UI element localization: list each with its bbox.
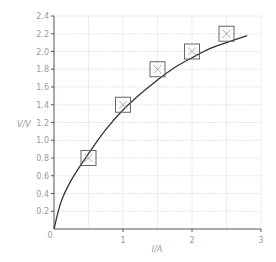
x-tick-label: 1: [120, 236, 125, 245]
tick-labels: 1230.20.40.60.81.01.21.41.61.82.02.22.4: [36, 12, 263, 245]
y-tick-label: 1.2: [36, 119, 49, 128]
y-tick-label: 1.6: [36, 83, 49, 92]
y-tick-label: 2.2: [36, 30, 49, 39]
grid: [54, 16, 261, 229]
y-tick-label: 1.0: [36, 136, 49, 145]
y-tick-label: 1.4: [36, 101, 49, 110]
y-tick-label: 0.8: [36, 154, 49, 163]
y-tick-label: 0.4: [36, 190, 49, 199]
y-tick-label: 2.4: [36, 12, 49, 21]
x-axis-label: I/A: [152, 245, 163, 254]
best-fit-curve: [54, 36, 247, 229]
y-axis-label: V/V: [17, 120, 31, 129]
y-tick-label: 0.6: [36, 172, 49, 181]
y-tick-label: 0.2: [36, 207, 49, 216]
y-tick-label: 1.8: [36, 65, 49, 74]
x-tick-label: 3: [258, 236, 263, 245]
chart: 1230.20.40.60.81.01.21.41.61.82.02.22.4 …: [0, 0, 276, 262]
origin-label: 0: [47, 231, 52, 240]
axes: [51, 16, 261, 232]
x-tick-label: 2: [189, 236, 194, 245]
y-tick-label: 2.0: [36, 48, 49, 57]
